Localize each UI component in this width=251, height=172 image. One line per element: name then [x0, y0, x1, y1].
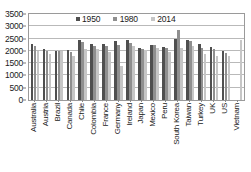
- bar-group: [113, 14, 125, 100]
- bar: [144, 50, 147, 100]
- bar: [60, 51, 63, 100]
- x-axis-tick-label: Japan: [137, 103, 145, 124]
- x-axis-tick: Brazil: [53, 102, 63, 160]
- y-axis-tick-label: 1500: [5, 59, 23, 68]
- bar: [108, 52, 111, 100]
- x-axis-tick: Turkey: [196, 102, 206, 160]
- x-axis-tick: Colombia: [89, 102, 99, 160]
- x-axis-tick-mark: [165, 100, 166, 102]
- x-axis-tick-label: Brazil: [54, 103, 62, 122]
- y-axis-tick-mark: [23, 14, 26, 15]
- bar-group: [29, 14, 41, 100]
- x-axis-tick: Germany: [113, 102, 123, 160]
- x-axis-tick-label: US: [221, 103, 229, 114]
- bar-chart: 3500300025002000150010005000 19501980201…: [0, 0, 251, 172]
- bar: [240, 40, 243, 100]
- bar-group: [220, 14, 232, 100]
- bar: [192, 46, 195, 100]
- bar-group: [148, 14, 160, 100]
- x-axis-tick: Ireland: [125, 102, 135, 160]
- y-axis-tick-mark: [23, 63, 26, 64]
- x-axis-tick-label: Chile: [78, 103, 86, 120]
- bars-layer: [29, 14, 244, 100]
- x-axis-tick-mark: [82, 100, 83, 102]
- x-axis-tick: UK: [208, 102, 218, 160]
- y-axis-tick-mark: [23, 100, 26, 101]
- x-axis-tick: Japan: [136, 102, 146, 160]
- bar: [49, 54, 52, 100]
- x-axis-tick: Austria: [41, 102, 51, 160]
- bar-group: [65, 14, 77, 100]
- bar-group: [172, 14, 184, 100]
- x-axis-tick: Canada: [65, 102, 75, 160]
- y-axis-tick-label: 1000: [5, 71, 23, 80]
- bar-group: [53, 14, 65, 100]
- bar: [168, 52, 171, 100]
- x-axis-tick-label: Peru: [161, 103, 169, 119]
- y-axis-tick-label: 3500: [5, 10, 23, 19]
- y-axis-tick-label: 500: [9, 83, 23, 92]
- x-axis-tick: France: [101, 102, 111, 160]
- x-axis-tick: US: [220, 102, 230, 160]
- x-axis-tick-label: Canada: [66, 103, 74, 130]
- bar: [84, 49, 87, 100]
- x-axis-tick-mark: [153, 100, 154, 102]
- y-axis-tick-mark: [23, 38, 26, 39]
- bar: [72, 56, 75, 100]
- bar: [132, 46, 135, 100]
- bar-group: [125, 14, 137, 100]
- x-axis-tick-mark: [34, 100, 35, 102]
- bar-group: [41, 14, 53, 100]
- bar-group: [184, 14, 196, 100]
- bar-group: [101, 14, 113, 100]
- y-axis-tick-label: 3000: [5, 22, 23, 31]
- x-axis-tick-label: South Korea: [173, 103, 181, 145]
- x-axis-tick-label: Vietnam: [233, 103, 241, 130]
- x-axis-tick-label: Taiwan: [185, 103, 193, 126]
- x-axis-tick-mark: [189, 100, 190, 102]
- bar-group: [89, 14, 101, 100]
- x-axis-tick-label: Colombia: [90, 103, 98, 135]
- bar: [216, 56, 219, 100]
- bar: [228, 56, 231, 100]
- x-axis-tick-mark: [177, 100, 178, 102]
- y-axis-tick-label: 2000: [5, 47, 23, 56]
- x-axis: AustraliaAustriaBrazilCanadaChileColombi…: [28, 102, 245, 160]
- x-axis-tick: Australia: [29, 102, 39, 160]
- x-axis-tick: South Korea: [172, 102, 182, 160]
- bar: [180, 48, 183, 100]
- x-axis-tick-label: Ireland: [126, 103, 134, 126]
- x-axis-tick-label: Germany: [114, 103, 122, 134]
- x-axis-tick-label: UK: [209, 103, 217, 114]
- x-axis-tick: Mexico: [148, 102, 158, 160]
- x-axis-tick-mark: [130, 100, 131, 102]
- bar-group: [208, 14, 220, 100]
- bar: [156, 48, 159, 100]
- bar-group: [77, 14, 89, 100]
- x-axis-tick: Taiwan: [184, 102, 194, 160]
- y-axis: 3500300025002000150010005000: [0, 13, 26, 101]
- x-axis-tick-label: Mexico: [149, 103, 157, 127]
- x-axis-tick-label: Turkey: [197, 103, 205, 126]
- bar-group: [137, 14, 149, 100]
- y-axis-tick-mark: [23, 50, 26, 51]
- x-axis-tick: Vietnam: [232, 102, 242, 160]
- x-axis-tick-label: Austria: [42, 103, 50, 126]
- y-axis-tick-mark: [23, 75, 26, 76]
- y-axis-tick-mark: [23, 87, 26, 88]
- bar: [120, 66, 123, 100]
- x-axis-tick-mark: [106, 100, 107, 102]
- x-axis-tick: Chile: [77, 102, 87, 160]
- x-axis-tick-mark: [94, 100, 95, 102]
- bar: [96, 49, 99, 100]
- y-axis-tick-label: 2500: [5, 34, 23, 43]
- x-axis-tick-mark: [237, 100, 238, 102]
- bar-group: [160, 14, 172, 100]
- x-axis-tick: Peru: [160, 102, 170, 160]
- x-axis-tick-mark: [141, 100, 142, 102]
- x-axis-tick-label: Australia: [30, 103, 38, 132]
- bar: [37, 51, 40, 100]
- x-axis-tick-mark: [225, 100, 226, 102]
- x-axis-tick-mark: [46, 100, 47, 102]
- plot-area: [28, 13, 245, 101]
